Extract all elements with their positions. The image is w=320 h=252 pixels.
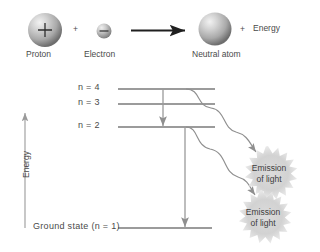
plus-sign-1: +: [73, 25, 78, 34]
neutral-atom-label: Neutral atom: [192, 50, 241, 59]
level-label-n4: n = 4: [78, 83, 100, 92]
energy-axis-label: Energy: [22, 151, 31, 178]
emission-lower-line1: Emission: [237, 208, 289, 217]
energy-product-label: Energy: [253, 24, 280, 33]
transition-arrows: [163, 89, 185, 227]
emission-upper-line1: Emission: [243, 164, 295, 173]
level-label-n2: n = 2: [78, 121, 100, 130]
electron-sphere: [97, 24, 112, 39]
wave-path-from-n4: [186, 89, 256, 152]
reaction-row: [28, 13, 232, 48]
emission-upper-line2: of light: [243, 175, 295, 184]
energy-level-lines: [118, 89, 215, 228]
neutral-atom-sphere: [199, 13, 232, 46]
plus-sign-2: +: [240, 25, 245, 34]
proton-label: Proton: [26, 50, 51, 59]
level-label-n1: Ground state (n = 1): [33, 222, 120, 231]
emission-lower-line2: of light: [237, 219, 289, 228]
proton-sphere: [28, 13, 62, 47]
emission-bursts: [239, 146, 297, 243]
electron-label: Electron: [84, 50, 115, 59]
wave-path-from-n2: [186, 127, 255, 195]
level-label-n3: n = 3: [78, 98, 100, 107]
